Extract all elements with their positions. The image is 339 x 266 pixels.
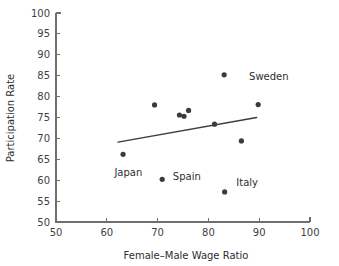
- x-tick-label: 70: [151, 227, 164, 238]
- annotation-label: Japan: [113, 167, 142, 178]
- x-tick-label: 100: [300, 227, 319, 238]
- y-axis-title: Participation Rate: [5, 74, 16, 163]
- data-point: [120, 152, 125, 157]
- annotation-label: Spain: [173, 171, 201, 182]
- data-point: [186, 108, 191, 113]
- annotation-label: Italy: [236, 177, 258, 188]
- data-point: [239, 138, 244, 143]
- data-point: [160, 177, 165, 182]
- data-point: [212, 122, 217, 127]
- x-tick-label: 50: [50, 227, 63, 238]
- data-point: [222, 72, 227, 77]
- x-tick-label: 90: [253, 227, 266, 238]
- y-tick-label: 70: [37, 133, 50, 144]
- x-tick-label: 80: [202, 227, 215, 238]
- y-tick-label: 55: [37, 196, 50, 207]
- data-point: [177, 112, 182, 117]
- y-axis-tick-labels: 50556065707580859095100: [31, 8, 50, 228]
- y-tick-label: 95: [37, 28, 50, 39]
- y-tick-label: 90: [37, 49, 50, 60]
- x-axis-title: Female–Male Wage Ratio: [124, 250, 249, 261]
- regression-line: [118, 118, 257, 143]
- y-tick-label: 80: [37, 91, 50, 102]
- chart-canvas: 50556065707580859095100 5060708090100 Sw…: [0, 0, 339, 266]
- y-tick-label: 85: [37, 70, 50, 81]
- data-point: [181, 114, 186, 119]
- y-tick-label: 100: [31, 8, 50, 19]
- annotation-label: Sweden: [249, 71, 289, 82]
- y-tick-label: 60: [37, 175, 50, 186]
- point-annotations: SwedenJapanSpainItaly: [113, 71, 288, 189]
- data-point: [256, 102, 261, 107]
- data-point: [222, 189, 227, 194]
- x-tick-label: 60: [100, 227, 113, 238]
- y-tick-label: 65: [37, 154, 50, 165]
- trend-line: [118, 118, 257, 143]
- scatter-chart: 50556065707580859095100 5060708090100 Sw…: [0, 0, 339, 266]
- y-tick-label: 75: [37, 112, 50, 123]
- y-tick-label: 50: [37, 217, 50, 228]
- x-axis-tick-labels: 5060708090100: [50, 227, 320, 238]
- data-point: [152, 102, 157, 107]
